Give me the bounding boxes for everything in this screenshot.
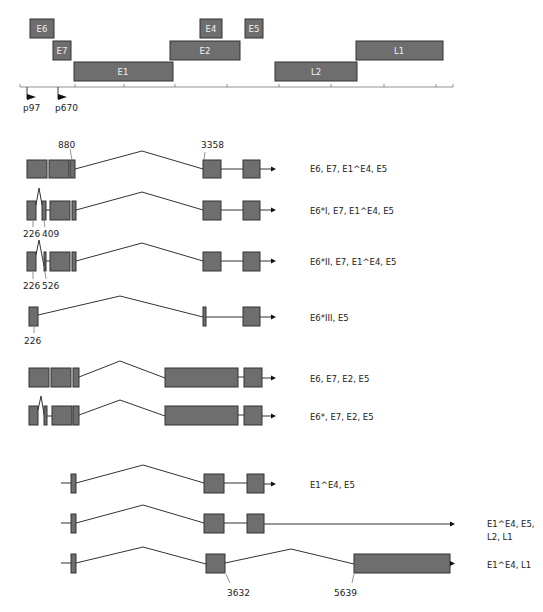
arrow-icon (271, 315, 276, 320)
genome-map: E6 E7 E1 E4 E2 E5 L2 L1 (20, 19, 453, 113)
arrow-icon (450, 522, 455, 527)
transcript-4-label: E6*III, E5 (310, 313, 349, 323)
arrow-icon (271, 376, 276, 381)
splice-409: 409 (42, 229, 59, 239)
splice-880: 880 (58, 140, 75, 150)
arrow-icon (450, 561, 455, 566)
transcript-3: 226 526 E6*II, E7, E1^E4, E5 (23, 240, 397, 291)
transcript-8: E1^E4, E5, L2, L1 (61, 505, 535, 542)
gene-l2-label: L2 (311, 67, 321, 77)
transcript-1-label: E6, E7, E1^E4, E5 (310, 164, 387, 174)
hpv-transcript-map: E6 E7 E1 E4 E2 E5 L2 L1 (0, 0, 543, 612)
promoter-p670-label: p670 (55, 103, 78, 113)
gene-e5-label: E5 (249, 24, 260, 34)
transcript-7-label: E1^E4, E5 (310, 480, 355, 490)
transcript-5: E6, E7, E2, E5 (29, 361, 369, 387)
arrow-icon (271, 259, 276, 264)
splice-226: 226 (23, 229, 40, 239)
gene-e4-label: E4 (206, 24, 217, 34)
genome-axis (20, 84, 453, 87)
splice-526: 526 (42, 281, 59, 291)
transcript-8-label: E1^E4, E5, (487, 519, 535, 529)
promoter-arrow-icon (27, 94, 36, 100)
gene-e2-label: E2 (200, 46, 211, 56)
transcript-1: 880 3358 E6, E7, E1^E4, E5 (27, 140, 387, 178)
transcript-6: E6*, E7, E2, E5 (29, 396, 374, 425)
arrow-icon (271, 208, 276, 213)
transcript-8-label-line2: L2, L1 (487, 532, 513, 542)
promoter-p97-label: p97 (23, 103, 40, 113)
arrow-icon (271, 482, 276, 487)
splice-226: 226 (24, 336, 41, 346)
arrow-icon (271, 414, 276, 419)
arrow-icon (271, 167, 276, 172)
gene-e6-label: E6 (37, 24, 48, 34)
promoter-p97: p97 (23, 87, 40, 113)
transcript-2-label: E6*I, E7, E1^E4, E5 (310, 206, 394, 216)
splice-226: 226 (23, 281, 40, 291)
splice-3358: 3358 (201, 140, 224, 150)
splice-5639: 5639 (334, 588, 357, 598)
gene-e1-label: E1 (118, 67, 129, 77)
transcript-7: E1^E4, E5 (61, 465, 355, 493)
transcript-6-label: E6*, E7, E2, E5 (310, 412, 374, 422)
transcript-3-label: E6*II, E7, E1^E4, E5 (310, 257, 397, 267)
transcript-9: 3632 5639 E1^E4, L1 (61, 547, 531, 598)
transcript-5-label: E6, E7, E2, E5 (310, 374, 369, 384)
transcript-2: 226 409 E6*I, E7, E1^E4, E5 (23, 188, 394, 239)
transcript-9-label: E1^E4, L1 (487, 560, 531, 570)
splice-3632: 3632 (227, 588, 250, 598)
promoter-p670: p670 (55, 87, 78, 113)
gene-l1-label: L1 (394, 46, 404, 56)
transcript-4: 226 E6*III, E5 (24, 296, 349, 346)
gene-e7-label: E7 (57, 46, 68, 56)
promoter-arrow-icon (58, 94, 67, 100)
